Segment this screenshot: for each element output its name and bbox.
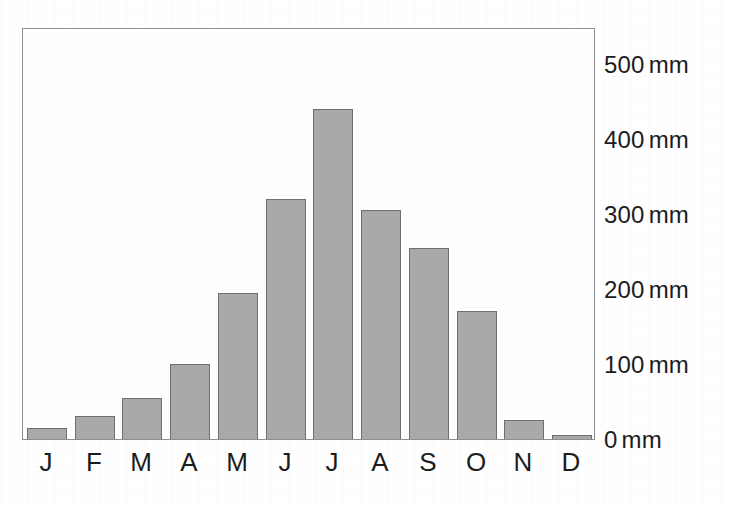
y-tick-number: 200: [604, 276, 645, 303]
bar-september: [409, 248, 449, 439]
y-tick-number: 300: [604, 201, 645, 228]
x-axis-month-label-april: A: [165, 449, 213, 475]
x-axis-month-label-august: A: [356, 449, 404, 475]
bar-august: [361, 210, 401, 439]
y-tick-unit: mm: [649, 126, 689, 153]
bar-march: [122, 398, 162, 439]
x-axis-month-label-february: F: [70, 449, 118, 475]
y-axis-tick-200mm: 200mm: [604, 278, 689, 302]
bar-july: [313, 109, 353, 439]
x-axis-month-label-march: M: [117, 449, 165, 475]
x-axis-month-label-june: J: [261, 449, 309, 475]
y-axis-tick-0mm: 0mm: [604, 428, 662, 452]
y-tick-unit: mm: [649, 351, 689, 378]
bar-january: [27, 428, 67, 439]
y-axis-tick-100mm: 100mm: [604, 353, 689, 377]
y-tick-number: 400: [604, 126, 645, 153]
plot-area-frame: [22, 28, 595, 440]
bar-june: [266, 199, 306, 439]
y-axis-tick-300mm: 300mm: [604, 203, 689, 227]
x-axis-month-label-may: M: [213, 449, 261, 475]
bar-november: [504, 420, 544, 439]
x-axis-month-label-november: N: [499, 449, 547, 475]
rainfall-bar-chart-figure: 500mm400mm300mm200mm100mm0mm JFMAMJJASON…: [0, 0, 729, 506]
y-tick-unit: mm: [649, 51, 689, 78]
y-tick-unit: mm: [649, 201, 689, 228]
y-tick-number: 500: [604, 51, 645, 78]
x-axis-month-label-october: O: [452, 449, 500, 475]
bar-december: [552, 435, 592, 439]
x-axis-month-label-july: J: [308, 449, 356, 475]
y-axis-tick-500mm: 500mm: [604, 53, 689, 77]
x-axis-month-label-december: D: [547, 449, 595, 475]
bar-may: [218, 293, 258, 439]
y-tick-number: 100: [604, 351, 645, 378]
y-tick-unit: mm: [622, 426, 662, 453]
y-tick-unit: mm: [649, 276, 689, 303]
bar-february: [75, 416, 115, 439]
x-axis-month-label-january: J: [22, 449, 70, 475]
bar-series-layer: [23, 29, 594, 439]
bar-october: [457, 311, 497, 439]
y-tick-number: 0: [604, 426, 618, 453]
bar-april: [170, 364, 210, 439]
x-axis-month-label-september: S: [404, 449, 452, 475]
y-axis-tick-400mm: 400mm: [604, 128, 689, 152]
